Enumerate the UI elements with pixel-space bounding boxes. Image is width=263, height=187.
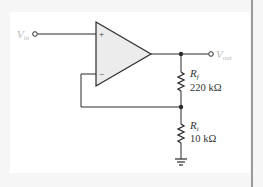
- svg-text:Vin: Vin: [17, 28, 30, 42]
- ri-value-label: 10 kΩ: [190, 133, 216, 144]
- output-terminal: [209, 52, 214, 57]
- opamp-triangle: [96, 22, 151, 86]
- resistor-ri-icon: [178, 124, 184, 143]
- rf-value-label: 220 kΩ: [190, 82, 222, 93]
- input-label: Vin: [17, 28, 30, 42]
- svg-text:Ri: Ri: [189, 119, 199, 133]
- ground-icon: [175, 159, 187, 165]
- rf-name-label: Rf: [189, 67, 200, 81]
- opamp-plus-sign: +: [99, 29, 104, 39]
- input-terminal: [33, 32, 38, 37]
- svg-text:Vout: Vout: [216, 48, 233, 62]
- output-label: Vout: [216, 48, 233, 62]
- ri-name-label: Ri: [189, 119, 199, 133]
- opamp-minus-sign: −: [99, 69, 104, 79]
- svg-text:Rf: Rf: [189, 67, 200, 81]
- resistor-rf-icon: [178, 72, 184, 91]
- op-amp-circuit: + − Vin Vout Rf 220 kΩ: [0, 0, 263, 187]
